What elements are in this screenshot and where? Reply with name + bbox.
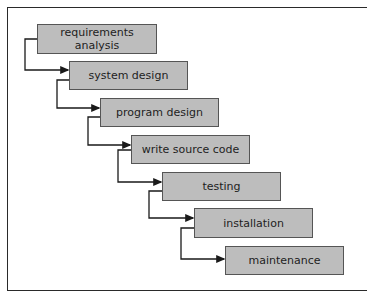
stage-maintenance: maintenance: [225, 246, 344, 275]
stage-label: program design: [116, 106, 203, 119]
stage-installation: installation: [194, 208, 313, 238]
stage-label: system design: [89, 69, 169, 82]
stage-label-line2: analysis: [60, 39, 134, 52]
stage-label: maintenance: [248, 254, 320, 267]
stage-label: write source code: [142, 143, 240, 156]
stage-system-design: system design: [69, 61, 188, 90]
stage-requirements-analysis: requirements analysis: [37, 24, 157, 54]
stage-program-design: program design: [100, 98, 219, 127]
stage-write-source-code: write source code: [131, 135, 250, 164]
stage-testing: testing: [162, 172, 281, 201]
stage-label-line1: requirements: [60, 26, 134, 39]
stage-label: installation: [223, 217, 284, 230]
stage-label: testing: [202, 180, 240, 193]
